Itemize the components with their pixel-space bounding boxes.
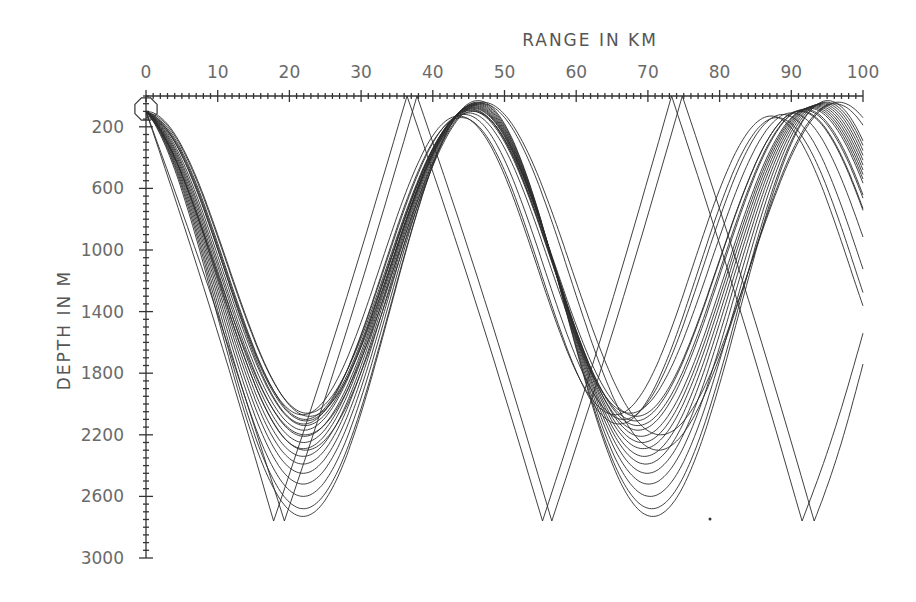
svg-text:DEPTH IN M: DEPTH IN M [54, 270, 74, 390]
ray-path-refracted-16 [146, 115, 863, 420]
ray-path-refracted-20 [146, 102, 863, 435]
ray-paths [146, 96, 863, 521]
ray-path-refracted-7 [146, 108, 863, 443]
x-axis-tick-labels: 0102030405060708090100 [141, 62, 880, 82]
y-axis-title: DEPTH IN M [54, 270, 74, 390]
y-tick-label: 1400 [81, 302, 124, 322]
x-tick-label: 10 [207, 62, 229, 82]
y-tick-label: 1000 [81, 240, 124, 260]
axes [139, 90, 863, 558]
x-tick-label: 50 [494, 62, 516, 82]
y-tick-label: 2200 [81, 425, 124, 445]
stray-dot [709, 518, 712, 521]
y-tick-label: 2600 [81, 486, 124, 506]
x-tick-label: 20 [279, 62, 301, 82]
y-tick-label: 1800 [81, 363, 124, 383]
ray-path-refracted-4 [146, 110, 863, 426]
x-tick-label: 30 [350, 62, 372, 82]
ray-trace-chart: RANGE IN KM 0102030405060708090100 20060… [0, 0, 916, 602]
ray-path-refracted-13 [146, 103, 863, 497]
y-tick-label: 3000 [81, 548, 124, 568]
y-axis-tick-labels: 200600100014001800220026003000 [81, 117, 124, 568]
x-tick-label: 100 [847, 62, 879, 82]
y-tick-label: 600 [92, 178, 124, 198]
x-tick-label: 0 [141, 62, 152, 82]
x-tick-label: 40 [422, 62, 444, 82]
x-tick-label: 90 [780, 62, 802, 82]
x-tick-label: 60 [565, 62, 587, 82]
y-tick-label: 200 [92, 117, 124, 137]
x-tick-label: 70 [637, 62, 659, 82]
ray-path-refracted-8 [146, 107, 863, 449]
x-axis-title: RANGE IN KM [522, 30, 658, 50]
x-tick-label: 80 [709, 62, 731, 82]
ray-path-refracted-19 [146, 104, 863, 451]
